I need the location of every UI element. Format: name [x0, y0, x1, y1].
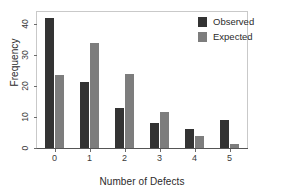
bar-observed-2	[115, 108, 124, 148]
bar-observed-5	[220, 120, 229, 148]
bar-expected-4	[195, 136, 204, 148]
bar-chart: Frequency 010203040 012345 Observed Expe…	[0, 0, 282, 194]
x-tick-label: 3	[152, 153, 168, 163]
bar-expected-2	[125, 74, 134, 148]
chart-legend: Observed Expected	[198, 14, 254, 44]
y-tick-label: 10	[17, 109, 33, 125]
x-tick-label: 1	[82, 153, 98, 163]
x-tick-label: 5	[222, 153, 238, 163]
x-axis-title: Number of Defects	[36, 176, 248, 187]
x-axis-line	[36, 148, 248, 149]
legend-item-expected: Expected	[198, 29, 254, 44]
x-tick-mark	[160, 149, 161, 152]
x-tick-mark	[55, 149, 56, 152]
bar-observed-0	[45, 18, 54, 148]
x-tick-mark	[230, 149, 231, 152]
bar-observed-1	[80, 82, 89, 148]
y-tick-label: 0	[17, 140, 33, 156]
legend-label-observed: Observed	[213, 16, 254, 27]
x-tick-mark	[90, 149, 91, 152]
legend-swatch-expected-icon	[198, 32, 207, 42]
x-tick-mark	[195, 149, 196, 152]
bar-expected-0	[55, 75, 64, 148]
bar-expected-1	[90, 43, 99, 148]
bar-observed-3	[150, 123, 159, 148]
x-tick-label: 2	[117, 153, 133, 163]
x-tick-label: 4	[187, 153, 203, 163]
legend-item-observed: Observed	[198, 14, 254, 29]
legend-swatch-observed-icon	[198, 17, 207, 27]
y-tick-label: 40	[17, 16, 33, 32]
bar-observed-4	[185, 129, 194, 148]
x-tick-mark	[125, 149, 126, 152]
y-tick-label: 20	[17, 78, 33, 94]
x-tick-label: 0	[47, 153, 63, 163]
y-tick-label: 30	[17, 47, 33, 63]
legend-label-expected: Expected	[213, 31, 253, 42]
bar-expected-5	[230, 144, 239, 148]
bar-expected-3	[160, 112, 169, 148]
